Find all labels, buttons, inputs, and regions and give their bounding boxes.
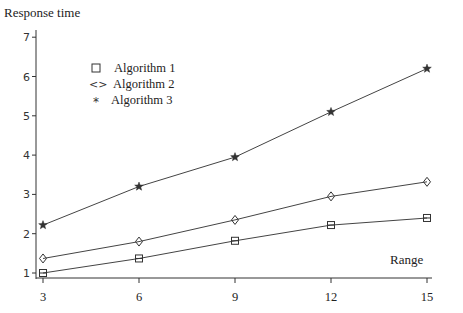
y-axis-ticks: 1234567 (23, 31, 36, 280)
star-marker-icon (135, 182, 144, 190)
series-line (43, 218, 427, 273)
star-marker-icon (231, 153, 240, 161)
x-axis-title: Range (390, 252, 423, 267)
x-tick-label: 12 (325, 290, 338, 304)
legend-item-algorithm-2: <> Algorithm 2 (89, 77, 174, 91)
square-marker-icon (92, 64, 100, 72)
axes (36, 30, 432, 279)
x-tick-label: 6 (136, 290, 142, 304)
legend-item-algorithm-1: Algorithm 1 (92, 61, 175, 75)
x-axis-ticks: 3691215 (40, 278, 433, 304)
line-chart: Response time Range 1234567 3691215 Algo… (0, 0, 463, 313)
y-axis-title: Response time (4, 5, 80, 20)
star-marker-icon (327, 107, 336, 115)
y-tick-label: 1 (23, 267, 30, 280)
y-tick-label: 5 (23, 110, 30, 123)
y-tick-label: 6 (23, 71, 30, 84)
x-tick-label: 3 (40, 290, 46, 304)
legend-item-algorithm-3: * Algorithm 3 (93, 93, 172, 109)
legend-label: Algorithm 3 (111, 93, 172, 107)
legend: Algorithm 1 <> Algorithm 2 * Algorithm 3 (89, 61, 175, 109)
series-line (43, 69, 427, 226)
series-line (43, 182, 427, 259)
legend-label: Algorithm 2 (113, 77, 174, 91)
y-tick-label: 7 (23, 31, 30, 44)
legend-label: Algorithm 1 (114, 61, 175, 75)
series-algorithm-2 (40, 177, 431, 263)
star-marker-icon (423, 64, 432, 72)
x-tick-label: 15 (421, 290, 434, 304)
x-tick-label: 9 (232, 290, 238, 304)
y-tick-label: 4 (23, 149, 30, 162)
diamond-marker-icon: <> (89, 78, 107, 91)
star-marker-icon: * (93, 95, 99, 109)
star-marker-icon (39, 221, 48, 229)
y-tick-label: 3 (23, 188, 30, 201)
y-tick-label: 2 (23, 228, 30, 241)
